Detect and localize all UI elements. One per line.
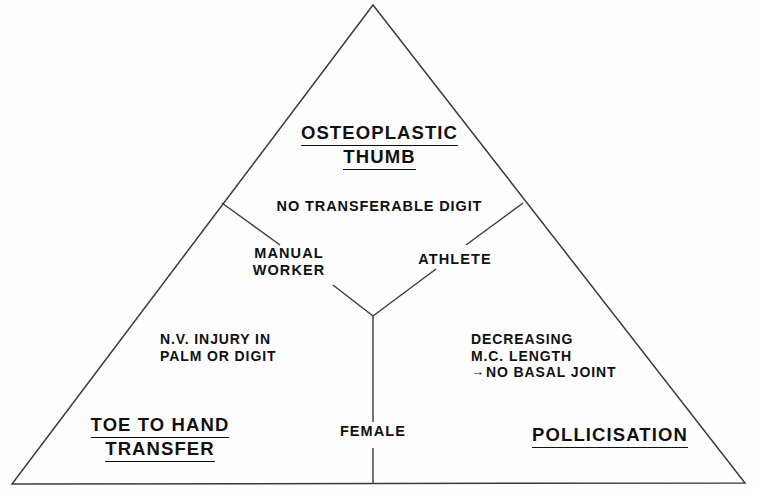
condition-no-transferable-digit: NO TRANSFERABLE DIGIT — [0, 198, 759, 215]
manual-worker-line2: WORKER — [228, 262, 350, 279]
condition-nv-injury: N.V. INJURY IN PALM OR DIGIT — [160, 331, 390, 364]
branch-line-right-lower — [373, 269, 436, 316]
right-arrow-icon: → — [471, 364, 485, 379]
node-manual-worker: MANUAL WORKER — [228, 245, 350, 279]
corner-label-pollicisation: POLLICISATION — [500, 424, 720, 448]
diagram-canvas: OSTEOPLASTIC THUMB NO TRANSFERABLE DIGIT… — [0, 0, 759, 493]
branch-line-left-lower — [333, 285, 373, 316]
toe-to-hand-line2: TRANSFER — [50, 438, 270, 462]
decreasing-line1: DECREASING — [471, 331, 701, 348]
osteoplastic-thumb-line1: OSTEOPLASTIC — [0, 122, 759, 146]
decreasing-line2: M.C. LENGTH — [471, 348, 701, 365]
osteoplastic-thumb-line2: THUMB — [0, 146, 759, 170]
corner-label-osteoplastic-thumb: OSTEOPLASTIC THUMB — [0, 122, 759, 170]
decreasing-line3: →NO BASAL JOINT — [471, 364, 701, 381]
node-athlete: ATHLETE — [394, 251, 516, 268]
outer-triangle-outline — [12, 5, 745, 484]
nv-injury-line2: PALM OR DIGIT — [160, 348, 390, 365]
toe-to-hand-line1: TOE TO HAND — [50, 414, 270, 438]
no-basal-joint-text: NO BASAL JOINT — [486, 364, 617, 380]
corner-label-toe-to-hand-transfer: TOE TO HAND TRANSFER — [50, 414, 270, 462]
nv-injury-line1: N.V. INJURY IN — [160, 331, 390, 348]
node-female: FEMALE — [313, 423, 433, 440]
manual-worker-line1: MANUAL — [228, 245, 350, 262]
pollicisation-line1: POLLICISATION — [500, 424, 720, 448]
condition-decreasing-mc-length: DECREASING M.C. LENGTH →NO BASAL JOINT — [471, 331, 701, 381]
